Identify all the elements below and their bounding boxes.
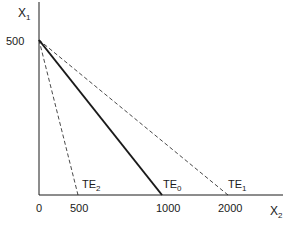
te2-label: TE2 bbox=[82, 178, 101, 193]
x-tick-500: 500 bbox=[70, 202, 88, 214]
x-tick-2000: 2000 bbox=[218, 202, 242, 214]
x-tick-0: 0 bbox=[36, 202, 42, 214]
budget-line-diagram: X1 500 0 500 1000 2000 X2 TE2 TE0 TE1 bbox=[0, 0, 298, 227]
te1-line bbox=[39, 40, 228, 195]
x-tick-1000: 1000 bbox=[156, 202, 180, 214]
te0-line bbox=[39, 40, 162, 195]
y-tick-500: 500 bbox=[6, 35, 24, 47]
te1-label: TE1 bbox=[228, 178, 247, 193]
te0-label: TE0 bbox=[163, 178, 182, 193]
y-axis-label: X1 bbox=[18, 6, 31, 22]
x-axis-label: X2 bbox=[270, 204, 283, 220]
